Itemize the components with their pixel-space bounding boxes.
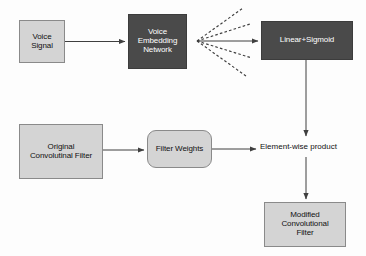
- node-filter-weights-label: Filter Weights: [156, 145, 203, 154]
- edge-fan-out-3: [197, 41, 252, 58]
- edge-fan-out-4: [197, 41, 246, 76]
- diagram-canvas: VoiceSignal VoiceEmbeddingNetwork Linear…: [0, 0, 366, 256]
- node-voice-embedding-network-label: VoiceEmbeddingNetwork: [138, 28, 178, 55]
- edge-fan-out-2: [197, 24, 250, 41]
- node-modified-convolutional-filter[interactable]: ModifiedConvolutionalFilter: [264, 202, 346, 247]
- node-voice-embedding-network[interactable]: VoiceEmbeddingNetwork: [128, 14, 187, 69]
- label-elementwise-product: Element-wise product: [260, 143, 337, 152]
- node-modified-convolutional-filter-label: ModifiedConvolutionalFilter: [281, 211, 328, 238]
- node-linear-sigmoid[interactable]: Linear+Sigmoid: [261, 21, 353, 60]
- node-voice-signal[interactable]: VoiceSignal: [19, 20, 65, 63]
- node-filter-weights[interactable]: Filter Weights: [147, 130, 212, 168]
- node-original-convolutional-filter[interactable]: OriginalConvolutinal Filter: [19, 124, 103, 179]
- node-linear-sigmoid-label: Linear+Sigmoid: [280, 36, 334, 45]
- node-original-convolutional-filter-label: OriginalConvolutinal Filter: [30, 143, 92, 161]
- node-voice-signal-label: VoiceSignal: [31, 33, 53, 51]
- edge-fan-out-1: [197, 8, 243, 41]
